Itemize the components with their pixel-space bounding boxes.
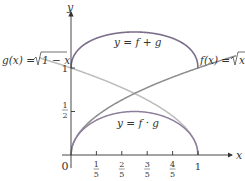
x-tick-2-num: 2 — [119, 160, 124, 169]
f-label: f(x) = x — [199, 52, 245, 66]
svg-text:x: x — [239, 54, 245, 66]
svg-text:f(x) =: f(x) = — [199, 54, 230, 66]
y-ticks — [71, 68, 75, 112]
svg-text:g(x) =: g(x) = — [2, 54, 35, 66]
svg-text:1 − x: 1 − x — [42, 54, 70, 66]
x-tick-4-den: 5 — [170, 170, 175, 179]
origin-label: 0 — [62, 160, 69, 173]
function-graph: 1 5 2 5 3 5 4 5 1 0 1 1 2 x y g(x) = 1 −… — [0, 0, 245, 181]
x-tick-one: 1 — [195, 161, 201, 172]
x-ticks — [96, 151, 198, 155]
y-axis-label: y — [66, 1, 74, 14]
product-label: y = f · g — [116, 117, 159, 129]
x-tick-1-num: 1 — [94, 160, 99, 169]
x-tick-4-num: 4 — [170, 160, 175, 169]
sum-label: y = f + g — [113, 36, 162, 48]
x-tick-2-den: 5 — [119, 170, 124, 179]
x-tick-3-den: 5 — [145, 170, 150, 179]
x-tick-1-den: 5 — [94, 170, 99, 179]
x-tick-3-num: 3 — [145, 160, 150, 169]
g-label: g(x) = 1 − x — [2, 52, 70, 66]
f-curve — [71, 56, 236, 155]
y-tick-half-den: 2 — [62, 111, 67, 120]
y-tick-half-num: 1 — [62, 101, 67, 110]
x-axis-label: x — [236, 149, 243, 162]
